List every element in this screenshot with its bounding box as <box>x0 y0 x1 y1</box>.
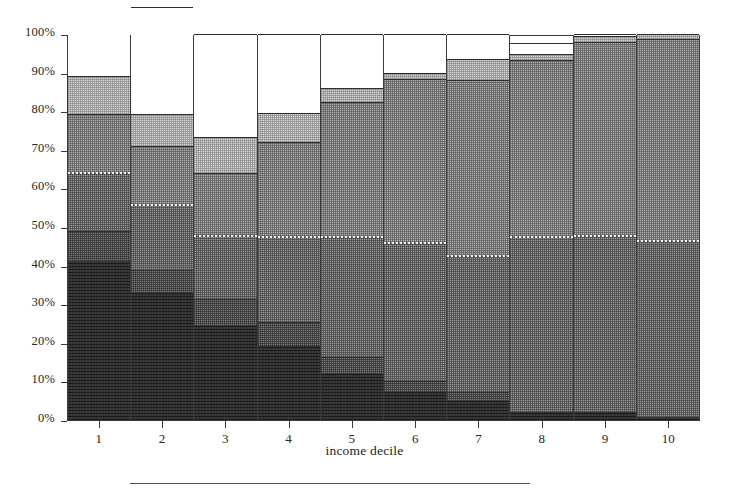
bar-segment <box>637 34 699 39</box>
bar-segment <box>131 293 193 420</box>
bar-segment <box>131 270 193 293</box>
bar-segment <box>384 34 446 73</box>
bar-segment <box>258 346 320 420</box>
bar-segment <box>637 417 699 420</box>
bar-segment <box>194 299 256 326</box>
bar-segment <box>384 73 446 79</box>
x-axis-tick <box>383 421 446 427</box>
bar-column <box>510 36 573 420</box>
bar-segment <box>510 236 572 412</box>
bar-segment <box>510 60 572 236</box>
bar-segment <box>447 80 509 255</box>
bar-segment <box>447 392 509 401</box>
bar-segment <box>574 42 636 235</box>
bar-segment <box>447 59 509 80</box>
plot-area <box>67 35 700 421</box>
bar-segment <box>574 34 636 36</box>
x-axis-tick <box>67 421 130 427</box>
bar-segment <box>258 34 320 113</box>
x-axis-tick <box>257 421 320 427</box>
y-axis-tick-label: 60% <box>31 180 55 192</box>
bar-segment <box>384 381 446 392</box>
bar-column <box>447 36 510 420</box>
bar-segment <box>447 34 509 59</box>
bar-segment <box>131 204 193 270</box>
bar-segment <box>321 236 383 357</box>
y-axis-tick-label: 90% <box>31 65 55 77</box>
bar-column <box>131 36 194 420</box>
x-axis-tick-mark <box>605 421 606 428</box>
y-axis-tick-label: 40% <box>31 258 55 270</box>
bar-segment <box>258 113 320 142</box>
bar-column <box>194 36 257 420</box>
x-axis-tick <box>573 421 636 427</box>
bar-column <box>321 36 384 420</box>
bar-segment <box>131 146 193 204</box>
bar-column <box>68 36 131 420</box>
bar-segment <box>68 172 130 231</box>
bar-group <box>68 36 699 420</box>
bar-segment <box>194 137 256 173</box>
x-axis-ticks <box>67 421 700 427</box>
bar-segment <box>131 114 193 147</box>
bar-segment <box>510 43 572 54</box>
x-axis-tick-mark <box>478 421 479 428</box>
bar-segment <box>194 235 256 299</box>
x-axis-tick <box>447 421 510 427</box>
x-axis-tick <box>510 421 573 427</box>
x-axis-tick-mark <box>352 421 353 428</box>
bar-segment <box>510 412 572 420</box>
bar-segment <box>68 76 130 113</box>
y-axis-tick-label: 0% <box>38 412 55 424</box>
bar-segment <box>447 401 509 420</box>
bar-segment <box>258 322 320 346</box>
bar-segment <box>384 242 446 381</box>
bar-segment <box>68 0 130 76</box>
bar-column <box>637 36 699 420</box>
bar-segment <box>131 7 193 113</box>
x-axis-tick <box>194 421 257 427</box>
y-axis-tick-label: 100% <box>25 26 55 38</box>
bar-segment <box>68 261 130 420</box>
bar-segment <box>574 412 636 420</box>
x-axis-tick-mark <box>289 421 290 428</box>
bar-segment <box>637 240 699 417</box>
x-axis-tick <box>320 421 383 427</box>
caption-divider <box>130 483 530 484</box>
bar-segment <box>194 34 256 137</box>
bar-segment <box>510 54 572 60</box>
bar-segment <box>194 173 256 235</box>
bar-segment <box>384 392 446 420</box>
x-axis-tick-mark <box>415 421 416 428</box>
bar-segment <box>321 88 383 102</box>
y-axis-tick-label: 50% <box>31 219 55 231</box>
bar-segment <box>258 236 320 322</box>
bar-segment <box>258 142 320 236</box>
x-axis-title: income decile <box>0 443 729 459</box>
bar-segment <box>68 231 130 261</box>
y-axis-tick-label: 10% <box>31 373 55 385</box>
bar-segment <box>384 79 446 242</box>
y-axis-tick-label: 70% <box>31 142 55 154</box>
x-axis-tick-mark <box>542 421 543 428</box>
bar-segment <box>68 114 130 173</box>
x-axis-tick-mark <box>668 421 669 428</box>
y-axis-tick-label: 20% <box>31 335 55 347</box>
bar-segment <box>574 36 636 42</box>
x-axis-tick-mark <box>162 421 163 428</box>
bar-segment <box>321 374 383 420</box>
bar-column <box>574 36 637 420</box>
stacked-bar-chart-figure: 0%10%20%30%40%50%60%70%80%90%100% 123456… <box>0 0 729 500</box>
bar-segment <box>637 39 699 240</box>
bar-column <box>384 36 447 420</box>
bar-segment <box>321 102 383 236</box>
bar-segment <box>321 34 383 88</box>
bar-segment <box>194 326 256 420</box>
x-axis-tick <box>130 421 193 427</box>
x-axis-tick-mark <box>225 421 226 428</box>
bar-segment <box>321 357 383 374</box>
bar-segment <box>574 235 636 412</box>
x-axis-tick <box>637 421 700 427</box>
y-axis: 0%10%20%30%40%50%60%70%80%90%100% <box>0 0 67 500</box>
y-axis-tick-label: 80% <box>31 103 55 115</box>
